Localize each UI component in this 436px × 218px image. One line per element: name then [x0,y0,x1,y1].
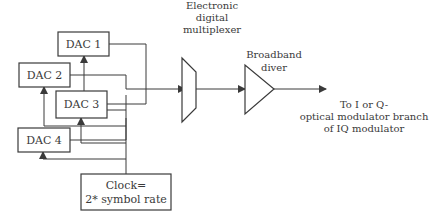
driver-label-line2: diver [261,62,287,73]
mux-label-line2: digital [196,12,228,23]
multiplexer-block: Electronic digital multiplexer [182,0,241,122]
iq-dac-mux-diagram: DAC 1 DAC 2 DAC 3 DAC 4 Clock= 2* symbol… [0,0,436,218]
output-label: To I or Q- optical modulator branch of I… [300,99,429,134]
broadband-driver-block: Broadband diver [245,49,302,114]
dac-3-block: DAC 3 [56,91,107,118]
clock-label-line1: Clock= [106,179,147,192]
output-label-line3: of IQ modulator [324,123,405,134]
dac-1-label: DAC 1 [66,38,102,51]
clock-block: Clock= 2* symbol rate [81,174,171,210]
dac-4-block: DAC 4 [18,128,70,152]
dac-4-label: DAC 4 [26,134,62,147]
dac-2-label: DAC 2 [27,69,63,82]
dac-2-block: DAC 2 [19,63,70,87]
output-label-line1: To I or Q- [340,99,388,110]
mux-label-line3: multiplexer [183,24,241,35]
output-label-line2: optical modulator branch [300,111,429,122]
dac-3-label: DAC 3 [64,98,100,111]
driver-label-line1: Broadband [246,49,302,60]
dac-1-block: DAC 1 [58,32,109,56]
mux-label-line1: Electronic [186,0,238,11]
clock-label-line2: 2* symbol rate [85,193,167,206]
